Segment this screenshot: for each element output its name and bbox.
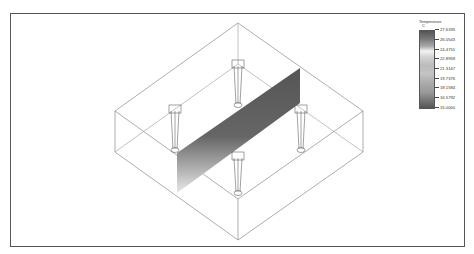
temperature-contour-plane [177, 68, 300, 193]
legend-tick: 24.4751 [435, 48, 455, 52]
3d-scene [0, 0, 474, 254]
temperature-legend: Temperature C 27.6335 26.0543 24.4751 22… [419, 20, 469, 28]
legend-tick: 21.3167 [435, 67, 455, 71]
legend-tick: 16.5792 [435, 96, 455, 100]
legend-tick: 22.8959 [435, 57, 455, 61]
color-scale-bar [419, 30, 435, 109]
pillar-front [232, 152, 244, 196]
legend-tick: 15.0000 [435, 106, 455, 110]
legend-tick: 19.7376 [435, 77, 455, 81]
legend-tick: 27.6335 [435, 28, 455, 32]
pillar-right [295, 105, 307, 153]
legend-tick: 18.1584 [435, 86, 455, 90]
legend-tick: 26.0543 [435, 38, 455, 42]
